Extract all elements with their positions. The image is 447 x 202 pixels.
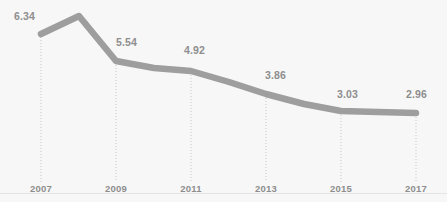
value-label-2017: 2.96 — [406, 88, 427, 100]
x-tick-label-2015: 2015 — [330, 183, 352, 194]
data-line-series — [41, 16, 416, 113]
value-label-2009: 5.54 — [116, 36, 137, 48]
x-tick-label-2017: 2017 — [405, 183, 427, 194]
value-label-2013: 3.86 — [265, 69, 286, 81]
chart-plot-area — [0, 0, 447, 202]
line-chart: 6.34 5.54 4.92 3.86 3.03 2.96 2007 2009 … — [0, 0, 447, 202]
value-label-2011: 4.92 — [184, 44, 205, 56]
value-label-2007: 6.34 — [14, 10, 35, 22]
x-tick-label-2009: 2009 — [105, 183, 127, 194]
value-label-2015: 3.03 — [337, 88, 358, 100]
gridlines — [41, 34, 416, 182]
x-tick-label-2011: 2011 — [180, 183, 201, 194]
x-tick-label-2007: 2007 — [30, 183, 52, 194]
x-tick-label-2013: 2013 — [255, 183, 277, 194]
